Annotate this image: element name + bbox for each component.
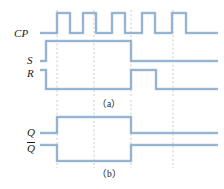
waveform-trace-q (40, 117, 218, 133)
waveform-trace-cp (40, 13, 218, 33)
panel-caption-b: （b） (97, 170, 122, 180)
waveform-halo-q (40, 117, 218, 133)
signal-label-s: S (27, 55, 33, 66)
waveform-halo-cp (40, 13, 218, 33)
waveform-traces-group (40, 13, 218, 161)
waveform-canvas (0, 0, 224, 189)
waveform-halo-s (40, 41, 218, 61)
panel-caption-a: （a） (97, 100, 121, 110)
waveform-trace-r (40, 70, 218, 89)
signal-label-cp: CP (14, 28, 28, 39)
signal-label-q-bar: Q (27, 142, 35, 154)
signal-label-q: Q (27, 127, 35, 138)
waveform-halo-qbar (40, 145, 218, 161)
waveform-trace-s (40, 41, 218, 61)
timing-diagram-figure: CP S R Q Q （a） （b） (0, 0, 224, 189)
waveform-halo-r (40, 70, 218, 89)
waveform-trace-qbar (40, 145, 218, 161)
signal-label-r: R (27, 68, 34, 79)
